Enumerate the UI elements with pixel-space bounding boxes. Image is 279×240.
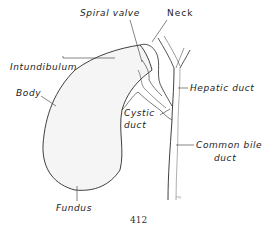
- hepatic-duct-left: [158, 38, 174, 68]
- artist-signature: hrg: [176, 195, 181, 199]
- label-intundibulum: Intundibulum: [10, 62, 77, 72]
- label-spiral-valve: Spiral valve: [80, 8, 140, 18]
- common-duct-left-wall: [168, 68, 174, 200]
- label-fundus: Fundus: [56, 203, 92, 213]
- label-neck: Neck: [167, 8, 193, 18]
- label-common-bile-duct-1: Common bile: [196, 140, 262, 150]
- hepatic-duct-right-inner: [176, 48, 184, 68]
- leader-cystic-duct: [160, 109, 170, 115]
- label-cystic-duct-1: Cystic: [124, 108, 155, 118]
- label-cystic-duct-2: duct: [124, 120, 146, 130]
- label-body: Body: [16, 88, 41, 98]
- hepatic-duct-right: [180, 50, 190, 68]
- hepatic-duct-left-inner: [164, 36, 180, 66]
- page-number: 412: [130, 215, 147, 225]
- label-hepatic-duct: Hepatic duct: [190, 83, 254, 93]
- leader-neck: [152, 20, 167, 42]
- label-common-bile-duct-2: duct: [214, 153, 236, 163]
